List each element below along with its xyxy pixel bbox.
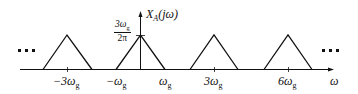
tick-label-sub: g [76, 81, 80, 90]
tick-label-wg: ωg [159, 75, 171, 90]
x-axis-label: ω [330, 75, 338, 87]
ellipsis-right-icon [322, 49, 339, 52]
tick-label-text: 3ω [204, 74, 218, 88]
ellipsis-left-icon [18, 49, 35, 52]
y-axis-label: XA(jω) [146, 8, 178, 23]
tick-label-text: 6ω [278, 74, 292, 88]
tick-label-6wg: 6ωg [278, 75, 296, 90]
tick-label-3wg: 3ωg [204, 75, 222, 90]
x-axis-arrow-icon [328, 68, 334, 72]
peak-denominator: 2π [114, 33, 131, 44]
triangle-6wg [264, 35, 312, 70]
tick-label-text: −3ω [53, 74, 76, 88]
peak-value-label: 3ωg 2π [114, 20, 131, 44]
tick-label-sub: g [123, 81, 127, 90]
tick-label-text: −ω [106, 74, 123, 88]
peak-numerator-sub: g [126, 24, 129, 31]
peak-numerator: 3ωg [114, 20, 131, 33]
peak-numerator-text: 3ω [115, 19, 126, 29]
tick-label-sub: g [218, 81, 222, 90]
y-label-arg: (jω) [158, 7, 178, 21]
triangle-minus-3wg [43, 35, 92, 70]
tick-label-sub: g [292, 81, 296, 90]
tick-label-sub: g [167, 81, 171, 90]
tick-label-minus-3wg: −3ωg [53, 75, 80, 90]
tick-label-minus-wg: −ωg [106, 75, 127, 90]
y-axis-arrow-icon [139, 11, 143, 17]
triangle-3wg [190, 35, 238, 70]
